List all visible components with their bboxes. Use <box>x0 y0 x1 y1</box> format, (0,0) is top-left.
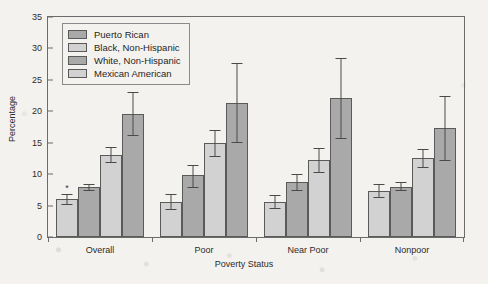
bar-slot <box>308 17 330 237</box>
error-bar <box>379 184 380 197</box>
error-bar <box>297 174 298 190</box>
error-bar-cap <box>210 156 221 157</box>
x-axis-label-text: Poverty Status <box>215 259 274 269</box>
legend-label: White, Non-Hispanic <box>94 55 181 66</box>
x-axis-group-label: Near Poor <box>256 245 360 255</box>
bar-slot <box>286 17 308 237</box>
error-bar-cap <box>418 167 429 168</box>
error-bar <box>133 92 134 135</box>
y-axis-tick-label: 25 <box>32 75 48 85</box>
legend-label: Puerto Rican <box>94 29 149 40</box>
x-axis-label: Poverty Status <box>0 259 488 269</box>
bar-group: Near Poor <box>256 17 360 237</box>
error-bar <box>401 182 402 190</box>
x-axis-group-label: Nonpoor <box>360 245 464 255</box>
bar-slot <box>434 17 456 237</box>
x-axis-tick-mark <box>360 237 361 242</box>
error-bar-cap <box>396 190 407 191</box>
chart-legend: Puerto RicanBlack, Non-HispanicWhite, No… <box>62 23 190 85</box>
error-bar <box>67 194 68 204</box>
error-bar-cap <box>84 190 95 191</box>
bar-slot <box>330 17 352 237</box>
x-axis-group-label: Overall <box>48 245 152 255</box>
error-bar-cap <box>210 130 221 131</box>
bar-slot <box>204 17 226 237</box>
error-bar-cap <box>84 184 95 185</box>
x-axis-tick-mark <box>256 237 257 242</box>
legend-item[interactable]: Puerto Rican <box>68 28 181 41</box>
y-axis-tick-label: 30 <box>32 43 48 53</box>
error-bar <box>423 149 424 167</box>
legend-swatch <box>68 56 87 65</box>
legend-item[interactable]: White, Non-Hispanic <box>68 54 181 67</box>
error-bar-cap <box>336 58 347 59</box>
error-bar-cap <box>166 194 177 195</box>
error-bar-cap <box>292 190 303 191</box>
error-bar-cap <box>188 187 199 188</box>
error-bar-cap <box>336 138 347 139</box>
error-bar-cap <box>232 142 243 143</box>
y-axis-tick-label: 10 <box>32 169 48 179</box>
error-bar-cap <box>106 147 117 148</box>
legend-swatch <box>68 43 87 52</box>
error-bar-cap <box>292 174 303 175</box>
y-axis-tick-label: 0 <box>37 232 48 242</box>
bar-slot <box>264 17 286 237</box>
error-bar-cap <box>106 162 117 163</box>
legend-label: Black, Non-Hispanic <box>94 42 180 53</box>
error-bar-cap <box>166 209 177 210</box>
legend-swatch <box>68 30 87 39</box>
error-bar-cap <box>396 182 407 183</box>
bar-chart-figure: Percentage 05101520253035 *OverallPoorNe… <box>0 0 488 284</box>
error-bar-cap <box>270 208 281 209</box>
bar-slot <box>368 17 390 237</box>
error-bar-cap <box>374 184 385 185</box>
x-axis-tick-mark <box>152 237 153 242</box>
significance-marker: * <box>65 185 69 191</box>
error-bar <box>341 58 342 138</box>
y-axis-tick-label: 35 <box>32 12 48 22</box>
error-bar-cap <box>314 172 325 173</box>
legend-label: Mexican American <box>94 68 172 79</box>
y-axis-tick-label: 15 <box>32 138 48 148</box>
error-bar <box>319 148 320 172</box>
error-bar-cap <box>62 194 73 195</box>
bar[interactable] <box>412 158 434 237</box>
error-bar-cap <box>374 197 385 198</box>
error-bar-cap <box>232 63 243 64</box>
error-bar-cap <box>440 160 451 161</box>
error-bar-cap <box>314 148 325 149</box>
error-bar <box>111 147 112 161</box>
error-bar-cap <box>128 92 139 93</box>
y-axis-label: Percentage <box>4 0 20 238</box>
error-bar <box>215 130 216 156</box>
error-bar <box>193 165 194 187</box>
error-bar <box>445 96 446 159</box>
error-bar-cap <box>62 204 73 205</box>
error-bar-cap <box>440 96 451 97</box>
error-bar-cap <box>128 135 139 136</box>
error-bar <box>171 194 172 208</box>
error-bar <box>237 63 238 142</box>
bar-group: Nonpoor <box>360 17 464 237</box>
x-axis-tick-mark <box>463 237 464 242</box>
legend-swatch <box>68 69 87 78</box>
bar-slot <box>226 17 248 237</box>
x-axis-tick-mark <box>48 237 49 242</box>
legend-item[interactable]: Black, Non-Hispanic <box>68 41 181 54</box>
error-bar-cap <box>418 149 429 150</box>
error-bar-cap <box>188 165 199 166</box>
plot-frame: 05101520253035 *OverallPoorNear PoorNonp… <box>47 16 465 238</box>
legend-item[interactable]: Mexican American <box>68 67 181 80</box>
error-bar-cap <box>270 195 281 196</box>
bar[interactable] <box>390 187 412 237</box>
y-axis-tick-label: 20 <box>32 106 48 116</box>
error-bar <box>275 195 276 208</box>
x-axis-group-label: Poor <box>152 245 256 255</box>
bar-slot <box>390 17 412 237</box>
bar[interactable] <box>100 155 122 237</box>
bar[interactable] <box>78 187 100 237</box>
y-axis-label-text: Percentage <box>7 96 17 142</box>
y-axis-tick-label: 5 <box>37 201 48 211</box>
bar-slot <box>412 17 434 237</box>
